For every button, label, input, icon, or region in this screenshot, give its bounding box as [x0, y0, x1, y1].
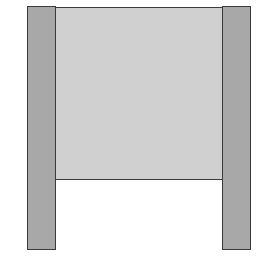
left-post [27, 6, 56, 250]
sign-panel [55, 7, 223, 180]
right-post [222, 6, 251, 250]
